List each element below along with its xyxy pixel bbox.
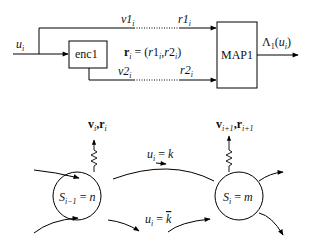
- input-label: ui: [16, 37, 24, 53]
- output-label: Λ1(ui): [262, 35, 291, 51]
- left-output-label: vi,ri: [88, 117, 107, 133]
- right-output-wavy-arrow: [226, 136, 232, 172]
- transition-k: [113, 169, 214, 181]
- right-output-label: vi+1,ri+1: [216, 117, 254, 133]
- right-state-label: Si = m: [223, 190, 253, 206]
- upper-rx-label: r1i: [178, 12, 191, 28]
- left-state-label: Si−1 = n: [59, 190, 95, 206]
- encoder-label: enc1: [75, 47, 98, 61]
- right-outgoing-upper: [259, 172, 283, 181]
- decoder-label: MAP1: [221, 48, 253, 62]
- transition-kbar-label: ui = k: [145, 212, 172, 228]
- left-incoming-lower: [34, 218, 78, 233]
- transition-kbar-out: [108, 220, 139, 231]
- lower-tx-label: v2i: [118, 64, 132, 80]
- left-output-wavy-arrow: [91, 140, 97, 172]
- transition-kbar-in: [168, 219, 210, 232]
- right-outgoing-lower: [259, 213, 283, 235]
- diagram-canvas: ui enc1 MAP1 v1i r1i v2i r2i ri = (r1i,r…: [0, 0, 311, 248]
- lower-rx-label: r2i: [180, 63, 193, 79]
- received-vector-label: ri = (r1i,r2i): [124, 45, 181, 61]
- upper-tx-label: v1i: [121, 12, 135, 28]
- transition-k-label: ui = k: [147, 147, 174, 163]
